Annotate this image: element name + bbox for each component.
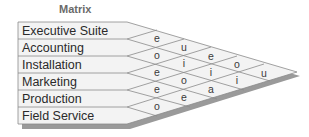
matrix-cell: e [181, 91, 187, 103]
row-label-marketing: Marketing [22, 75, 77, 89]
row-label-accounting: Accounting [22, 41, 84, 55]
row-label-production: Production [22, 92, 82, 106]
matrix-cell: u [181, 41, 187, 53]
matrix-cell: i [210, 66, 212, 78]
matrix-cell: e [208, 50, 214, 62]
matrix-cell: o [181, 74, 187, 86]
matrix-cell: o [154, 49, 160, 61]
matrix-cell: e [154, 66, 160, 78]
matrix-cell: o [154, 100, 160, 112]
matrix-cell: e [154, 32, 160, 44]
row-label-executive-suite: Executive Suite [22, 24, 108, 38]
matrix-cell: a [208, 83, 214, 95]
matrix-cell: o [234, 58, 240, 70]
matrix-cell: u [261, 67, 267, 79]
matrix-cell: i [236, 74, 238, 86]
row-label-field-service: Field Service [22, 109, 94, 123]
row-label-installation: Installation [22, 58, 82, 72]
matrix-cell: i [183, 57, 185, 69]
matrix-cell: e [154, 83, 160, 95]
relationship-matrix: Executive Suite Accounting Installation … [0, 0, 309, 137]
